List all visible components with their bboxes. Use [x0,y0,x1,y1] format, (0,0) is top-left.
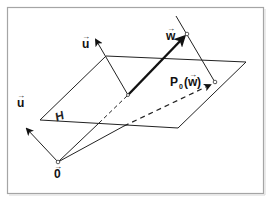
base-point [127,94,130,97]
svg-text:0: 0 [179,83,183,90]
label-w: w → [165,24,176,43]
svg-text:→: → [167,24,175,33]
projection-point [213,80,217,84]
label-u-top: u → [82,32,90,51]
figure-frame [8,8,264,194]
svg-text:): ) [197,75,201,89]
svg-text:→: → [54,162,62,171]
w-point [185,32,189,36]
svg-text:→: → [17,91,25,100]
label-u-left: u → [17,91,25,110]
svg-text:→: → [189,70,197,79]
svg-text:P: P [170,75,178,89]
projection-diagram: u → u → w → 0 → H P 0 ( w → ) [0,0,270,201]
svg-text:→: → [82,32,90,41]
